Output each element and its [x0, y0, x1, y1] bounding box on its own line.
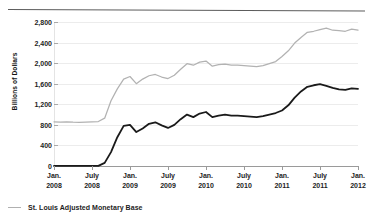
chart-legend: St. Louis Adjusted Monetary Base: [8, 204, 143, 211]
y-tick-label: 2,000: [34, 60, 52, 67]
x-tick-label: Jan.2008: [46, 171, 62, 190]
y-tick-label: 1,600: [34, 80, 52, 87]
legend-line-swatch-icon: [8, 207, 21, 208]
series-line: [54, 84, 358, 166]
x-tick-mark: [320, 166, 321, 170]
x-tick-mark: [358, 166, 359, 170]
legend-item-label: St. Louis Adjusted Monetary Base: [28, 204, 143, 211]
y-tick-label: 800: [40, 121, 52, 128]
y-tick-label: 2,800: [34, 19, 52, 26]
x-tick-label: July2010: [236, 171, 252, 190]
series-line: [54, 28, 358, 122]
x-tick-label: Jan.2012: [350, 171, 366, 190]
x-tick-label: Jan.2010: [198, 171, 214, 190]
x-tick-label: Jan.2011: [274, 171, 289, 190]
y-tick-label: 1,200: [34, 101, 52, 108]
x-tick-label: July2011: [312, 171, 327, 190]
y-tick-label: 400: [40, 142, 52, 149]
x-tick-label: July2009: [160, 171, 176, 190]
x-tick-label: Jan.2009: [122, 171, 138, 190]
x-tick-mark: [244, 166, 245, 170]
chart-figure: Billions of Dollars 04008001,2001,6002,0…: [0, 0, 368, 222]
x-tick-label: July2008: [84, 171, 100, 190]
x-tick-mark: [282, 166, 283, 170]
x-tick-mark: [54, 166, 55, 170]
x-tick-mark: [130, 166, 131, 170]
y-tick-label: 0: [48, 163, 52, 170]
y-tick-label: 2,400: [34, 39, 52, 46]
x-tick-mark: [168, 166, 169, 170]
x-tick-mark: [206, 166, 207, 170]
series-lines: [54, 22, 358, 166]
y-axis-tick-labels: 04008001,2001,6002,0002,4002,800: [14, 22, 52, 166]
x-tick-mark: [92, 166, 93, 170]
x-axis-tick-labels: Jan.2008July2008Jan.2009July2009Jan.2010…: [0, 171, 368, 197]
top-divider-rule: [8, 9, 365, 12]
